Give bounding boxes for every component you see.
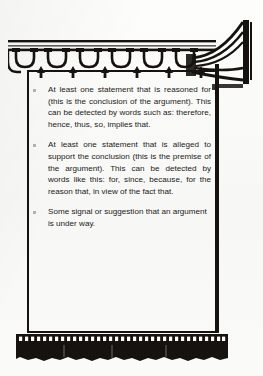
list-item-text: At least one statement that is alleged t… xyxy=(48,139,211,197)
frame-top-rule xyxy=(27,70,217,72)
square-bullet-icon xyxy=(33,89,36,92)
document-page: At least one statement that is reasoned … xyxy=(0,0,263,376)
horn-flourish-ornament-icon xyxy=(186,6,260,90)
frame-bottom-rule xyxy=(27,331,219,333)
list-item: Some signal or suggestion that an argume… xyxy=(33,206,211,229)
frame-left-rule xyxy=(27,70,29,333)
list-item: At least one statement that is alleged t… xyxy=(33,139,211,197)
list-item: At least one statement that is reasoned … xyxy=(33,84,211,130)
list-item-text: Some signal or suggestion that an argume… xyxy=(48,206,211,229)
list-item-text: At least one statement that is reasoned … xyxy=(48,84,211,130)
square-bullet-icon xyxy=(33,211,36,214)
square-bullet-icon xyxy=(33,144,36,147)
tassel-fringe-ornament-icon xyxy=(16,334,228,364)
frame-right-rule xyxy=(215,64,219,333)
bullet-list: At least one statement that is reasoned … xyxy=(33,84,211,230)
